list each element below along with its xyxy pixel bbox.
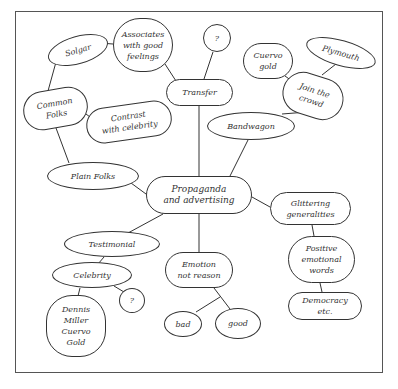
node-transfer: Transfer	[166, 79, 233, 106]
node-good: good	[215, 308, 261, 339]
node-associates-good-feelings: Associates with good feelings	[113, 18, 173, 72]
node-bandwagon: Bandwagon	[207, 112, 295, 140]
node-celebrity-question: ?	[119, 288, 145, 313]
node-transfer-question: ?	[203, 24, 231, 52]
node-cuervo-gold: Cuervo gold	[243, 43, 293, 79]
node-emotion-not-reason: Emotion not reason	[165, 252, 233, 288]
node-plain-folks: Plain Folks	[47, 162, 139, 190]
node-propaganda-advertising: Propaganda and advertising	[146, 176, 252, 214]
node-testimonial: Testimonial	[64, 231, 160, 257]
node-bad: bad	[164, 311, 202, 337]
node-celebrity: Celebrity	[52, 262, 132, 288]
node-dennis-miller-cuervo-gold: Dennis Miller Cuervo Gold	[46, 295, 106, 357]
node-glittering-generalities: Glittering generalities	[270, 192, 351, 225]
node-democracy-etc: Democracy etc.	[288, 292, 362, 320]
node-positive-emotional-words: Positive emotional words	[288, 236, 355, 283]
